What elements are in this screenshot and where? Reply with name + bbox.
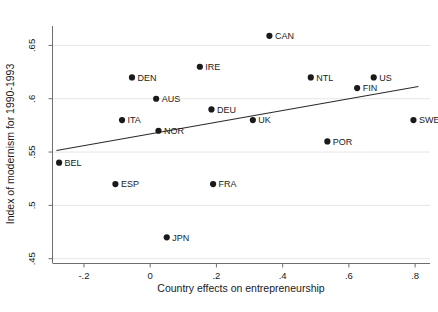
data-point-label: SWE — [419, 115, 438, 125]
data-point-label: AUS — [162, 94, 181, 104]
chart-background — [0, 0, 438, 312]
data-point-marker — [164, 234, 170, 240]
y-tick-label: .5 — [26, 201, 37, 209]
y-axis-title: Index of modernism for 1990-1993 — [4, 64, 16, 225]
data-point-label: FRA — [219, 179, 237, 189]
data-point-label: JPN — [172, 233, 189, 243]
x-tick-label: .2 — [212, 270, 220, 281]
x-axis-title: Country effects on entrepreneurship — [157, 282, 324, 294]
scatter-chart-figure: .45.5.55.6.65 -.20.2.4.6.8 BELESPITADENA… — [0, 0, 438, 312]
data-point-label: ESP — [121, 179, 139, 189]
y-tick-label: .45 — [26, 252, 37, 265]
data-point-label: NOR — [164, 126, 185, 136]
data-point-marker — [208, 106, 214, 112]
x-tick-label: .6 — [345, 270, 353, 281]
data-point-marker — [354, 85, 360, 91]
x-tick-label: 0 — [148, 270, 153, 281]
data-point-marker — [324, 138, 330, 144]
data-point-label: BEL — [65, 158, 82, 168]
data-point-label: NTL — [316, 73, 333, 83]
data-point-marker — [129, 74, 135, 80]
x-tick-label: .4 — [279, 270, 287, 281]
data-point-marker — [210, 181, 216, 187]
y-tick-label: .6 — [26, 95, 37, 103]
y-tick-label: .65 — [26, 39, 37, 52]
data-point-label: IRE — [205, 62, 220, 72]
data-point-label: ITA — [128, 115, 141, 125]
data-point-marker — [410, 117, 416, 123]
scatter-plot-svg: .45.5.55.6.65 -.20.2.4.6.8 BELESPITADENA… — [0, 0, 438, 312]
x-tick-label: -.2 — [78, 270, 89, 281]
data-point-label: US — [379, 73, 392, 83]
data-point-marker — [56, 160, 62, 166]
data-point-label: FIN — [363, 83, 378, 93]
data-point-marker — [266, 33, 272, 39]
data-point-label: UK — [258, 115, 271, 125]
data-point-label: DEN — [137, 73, 156, 83]
x-tick-label: .8 — [411, 270, 419, 281]
data-point-marker — [153, 96, 159, 102]
data-point-marker — [119, 117, 125, 123]
data-point-label: CAN — [275, 31, 294, 41]
data-point-marker — [112, 181, 118, 187]
y-tick-label: .55 — [26, 145, 37, 158]
data-point-label: DEU — [217, 105, 236, 115]
data-point-marker — [250, 117, 256, 123]
data-point-marker — [197, 64, 203, 70]
data-point-marker — [308, 74, 314, 80]
data-point-marker — [155, 128, 161, 134]
data-point-marker — [371, 74, 377, 80]
data-point-label: POR — [333, 137, 353, 147]
